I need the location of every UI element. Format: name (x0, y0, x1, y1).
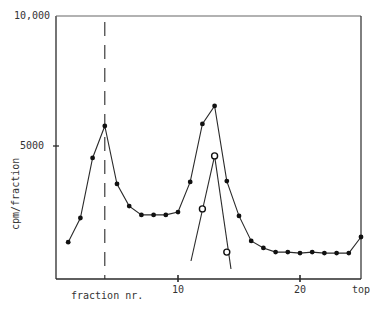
data-point-open (224, 249, 230, 255)
chart-plot (0, 0, 383, 312)
data-point-filled (322, 251, 327, 256)
y-tick-10000: 10,000 (14, 10, 50, 21)
data-point-filled (200, 122, 205, 127)
data-point-filled (346, 251, 351, 256)
data-point-filled (212, 104, 217, 109)
x-axis-label: fraction nr. (71, 290, 143, 301)
data-point-filled (90, 156, 95, 161)
data-point-filled (78, 216, 83, 221)
data-point-filled (310, 250, 315, 255)
data-point-filled (249, 239, 254, 244)
x-tick-20: 20 (294, 284, 306, 295)
data-point-filled (163, 213, 168, 218)
data-point-filled (273, 250, 278, 255)
data-point-open (212, 153, 218, 159)
data-point-filled (359, 235, 364, 240)
data-point-filled (237, 214, 242, 219)
data-point-filled (224, 179, 229, 184)
data-point-filled (261, 246, 266, 251)
x-tick-10: 10 (172, 284, 184, 295)
data-point-filled (285, 250, 290, 255)
data-point-filled (115, 182, 120, 187)
y-axis-label: cpm/fraction (10, 158, 21, 230)
x-tick-top: top (352, 284, 370, 295)
data-point-filled (139, 213, 144, 218)
data-point-filled (127, 204, 132, 209)
data-point-filled (188, 179, 193, 184)
data-point-filled (298, 251, 303, 256)
data-point-open (199, 206, 205, 212)
data-point-filled (102, 124, 107, 129)
series-filled-line (68, 106, 361, 253)
data-point-filled (334, 251, 339, 256)
y-tick-5000: 5000 (20, 140, 44, 151)
data-point-filled (66, 240, 71, 245)
data-point-filled (176, 210, 181, 215)
data-point-filled (151, 213, 156, 218)
